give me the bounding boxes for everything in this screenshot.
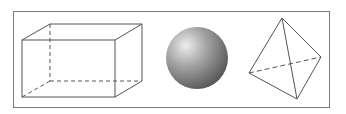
figure-canvas (0, 0, 346, 114)
tetrahedron (249, 18, 321, 99)
sphere (166, 27, 228, 89)
rectangular-prism (22, 24, 142, 97)
